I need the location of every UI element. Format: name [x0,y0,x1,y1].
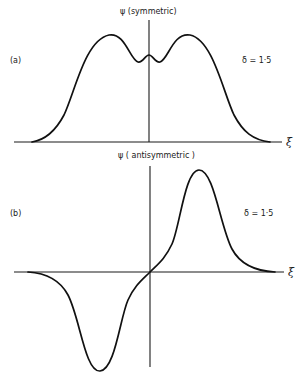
x-axis-label-a: ξ [286,136,293,149]
x-axis-label-b: ξ [288,266,295,279]
panel-a: ψ (symmetric) (a) δ = 1·5 ξ [10,7,293,149]
panel-label-b: (b) [10,209,21,218]
y-axis-label-b: ψ ( antisymmetric ) [118,151,195,160]
parameter-label-a: δ = 1·5 [242,56,271,65]
panel-b: ψ ( antisymmetric ) (b) δ = 1·5 ξ [10,151,295,371]
parameter-label-b: δ = 1·5 [244,209,273,218]
y-axis-label-a: ψ (symmetric) [120,7,177,16]
figure: ψ (symmetric) (a) δ = 1·5 ξ ψ ( antisymm… [0,0,303,380]
symmetric-curve [32,35,270,142]
panel-label-a: (a) [10,56,21,65]
antisymmetric-curve [28,170,275,371]
